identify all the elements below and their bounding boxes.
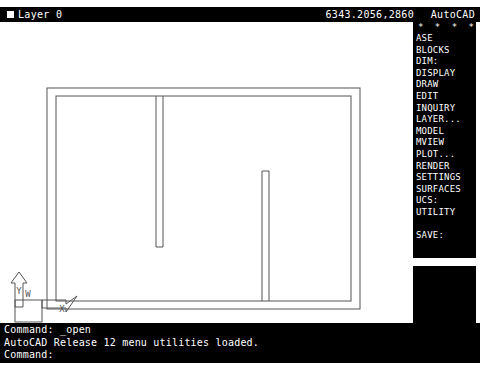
layer-indicator[interactable]: Layer 0	[18, 7, 62, 22]
ucs-icon: Y W X	[11, 272, 77, 322]
window-box-icon[interactable]	[7, 11, 14, 18]
command-line: Command: _open	[0, 324, 480, 337]
drawing-area[interactable]: Y W X	[0, 22, 413, 323]
menu-item-settings[interactable]: SETTINGS	[413, 172, 480, 184]
status-bar: Layer 0 6343.2056,2860 AutoCAD	[0, 7, 480, 22]
screen-menu-panel: * * * * ASEBLOCKSDIM:DISPLAYDRAWEDITINQU…	[413, 22, 480, 323]
ucs-origin-box	[15, 300, 42, 322]
menu-item-render[interactable]: RENDER	[413, 161, 480, 173]
command-line: AutoCAD Release 12 menu utilities loaded…	[0, 337, 480, 350]
menu-item-blocks[interactable]: BLOCKS	[413, 45, 480, 57]
floor-plan-drawing[interactable]: Y W X	[0, 22, 413, 323]
menu-separator	[413, 258, 480, 266]
coordinate-readout[interactable]: 6343.2056,2860	[326, 7, 415, 22]
menu-item-save[interactable]: SAVE:	[413, 230, 480, 242]
ucs-y-label: Y	[16, 286, 22, 296]
autocad-window: Layer 0 6343.2056,2860 AutoCAD Y	[0, 0, 480, 375]
menu-item-plot[interactable]: PLOT...	[413, 149, 480, 161]
menu-item-draw[interactable]: DRAW	[413, 79, 480, 91]
command-line: Command:	[0, 349, 480, 362]
application-name: AutoCAD	[431, 7, 475, 22]
menu-item-edit[interactable]: EDIT	[413, 91, 480, 103]
menu-item-dim[interactable]: DIM:	[413, 56, 480, 68]
menu-item-layer[interactable]: LAYER...	[413, 114, 480, 126]
menu-item-surfaces[interactable]: SURFACES	[413, 184, 480, 196]
menu-item-inquiry[interactable]: INQUIRY	[413, 103, 480, 115]
bottom-strip	[0, 363, 480, 375]
menu-item-display[interactable]: DISPLAY	[413, 68, 480, 80]
menu-item-ucs[interactable]: UCS:	[413, 195, 480, 207]
interior-wall-upper	[156, 96, 163, 247]
menu-lower-blank	[413, 266, 480, 323]
menu-item-mview[interactable]: MVIEW	[413, 137, 480, 149]
menu-stars-row[interactable]: * * * *	[413, 22, 480, 33]
menu-item-list: ASEBLOCKSDIM:DISPLAYDRAWEDITINQUIRYLAYER…	[413, 33, 480, 219]
menu-right-edge	[476, 22, 480, 323]
menu-spacer	[413, 219, 480, 231]
outer-wall-outer-line	[47, 88, 360, 309]
menu-item-model[interactable]: MODEL	[413, 126, 480, 138]
interior-wall-lower	[262, 171, 269, 301]
outer-wall-inner-line	[56, 96, 351, 301]
command-line-area[interactable]: Command: _openAutoCAD Release 12 menu ut…	[0, 323, 480, 363]
ucs-world-label: W	[25, 289, 31, 299]
command-history: Command: _openAutoCAD Release 12 menu ut…	[0, 324, 480, 362]
ucs-x-label: X	[59, 304, 65, 314]
menu-item-ase[interactable]: ASE	[413, 33, 480, 45]
menu-item-utility[interactable]: UTILITY	[413, 207, 480, 219]
